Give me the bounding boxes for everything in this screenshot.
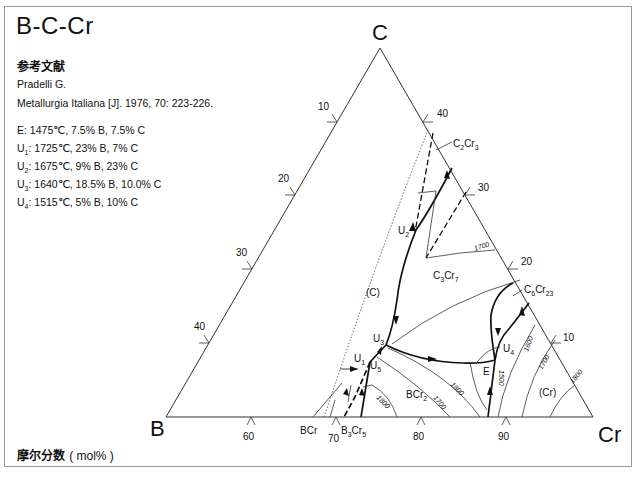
left-tick-40: 40 (194, 321, 206, 332)
isotherm-1700-bcr2: 1700 (432, 394, 447, 411)
point-u1-label: U1 (354, 353, 365, 366)
left-tick-30: 30 (236, 247, 248, 258)
right-tick-10: 10 (563, 332, 575, 343)
right-tick-30: 30 (478, 182, 490, 193)
point-u2-label: U2 (398, 225, 409, 238)
bottom-tick-60: 60 (243, 431, 255, 442)
vertex-b-label: B (150, 416, 165, 441)
bottom-tick-90: 90 (498, 431, 510, 442)
ternary-diagram: C B Cr 10 20 30 40 40 30 20 10 60 70 80 … (0, 0, 640, 478)
isotherm-1800-cr: 1800 (568, 368, 583, 385)
dashed-tie-lines (415, 133, 466, 258)
bottom-edge-ticks (247, 417, 510, 425)
isotherm-1800-bcr2: 1800 (375, 394, 391, 410)
right-tick-20: 20 (521, 256, 533, 267)
phase-bcr-label: BCr (300, 425, 318, 436)
isotherm-1500: 1500 (498, 370, 505, 386)
phase-c2cr3-label: C2Cr3 (453, 138, 479, 151)
vertex-c-label: C (372, 20, 388, 45)
isotherm-1600: 1600 (522, 335, 534, 352)
isotherm-1700-cr: 1700 (537, 353, 551, 370)
phase-c6cr23-label: C6Cr23 (524, 284, 554, 297)
point-u4-label: U4 (503, 343, 514, 356)
left-tick-10: 10 (318, 101, 330, 112)
right-tick-40: 40 (437, 108, 449, 119)
isotherm-1800-right: 1800 (449, 381, 465, 397)
phase-chromium-label: (Cr) (539, 387, 556, 398)
point-u3-label: U3 (373, 333, 384, 346)
phase-b3cr5-label: B3Cr5 (341, 425, 366, 438)
vertex-cr-label: Cr (598, 422, 621, 447)
point-e-label: E (483, 366, 490, 377)
bottom-tick-70: 70 (328, 433, 340, 444)
graphite-boundary-dotted (324, 130, 428, 417)
point-u5-label: U5 (370, 360, 381, 373)
phase-graphite-label: (C) (366, 287, 380, 298)
left-tick-20: 20 (278, 173, 290, 184)
left-edge-ticks (199, 114, 337, 343)
ternary-triangle (166, 48, 593, 417)
bottom-tick-80: 80 (413, 431, 425, 442)
phase-c3cr7-label: C3Cr7 (433, 270, 459, 283)
phase-bcr2-label: BCr2 (406, 389, 427, 402)
